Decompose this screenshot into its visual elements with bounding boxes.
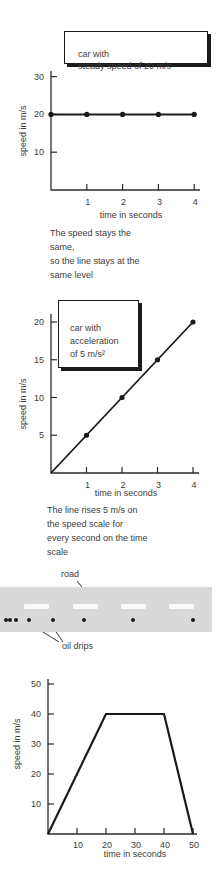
y-tick-label: 10	[31, 799, 41, 809]
x-tick-label: 1	[85, 480, 90, 490]
figures-graphics: 1020301234speed in m/stime in seconds510…	[0, 0, 222, 888]
steady-speed-caption: The speed stays the same, so the line st…	[50, 226, 210, 282]
axes	[51, 71, 200, 190]
x-tick-label: 2	[121, 197, 126, 207]
data-point	[84, 433, 89, 438]
steady-speed-callout: car with steady speed of 20 m/s	[64, 31, 208, 64]
y-tick-label: 20	[31, 769, 41, 779]
y-axis-title: speed in m/s	[12, 718, 22, 770]
oil-drip-dot	[191, 618, 195, 622]
x-tick-label: 3	[157, 197, 162, 207]
data-point	[192, 112, 197, 117]
oil-drip-dot	[51, 618, 55, 622]
y-tick-label: 30	[34, 72, 44, 82]
chart-3: 10203040501020304050speed in m/stime in …	[12, 679, 199, 859]
y-tick-label: 20	[34, 109, 44, 119]
data-point	[155, 357, 160, 362]
chart-1: 1020301234speed in m/stime in seconds	[18, 71, 200, 220]
oil-drip-dot	[14, 618, 18, 622]
lane-marking-dash	[169, 604, 194, 609]
x-tick-label: 10	[73, 840, 83, 850]
y-axis-title: speed in m/s	[18, 105, 28, 157]
y-tick-label: 40	[31, 709, 41, 719]
y-tick-label: 5	[39, 430, 44, 440]
data-point	[156, 112, 161, 117]
data-point	[119, 395, 124, 400]
oil-drip-dot	[27, 618, 31, 622]
y-tick-label: 50	[31, 679, 41, 689]
x-axis-title: time in seconds	[100, 210, 163, 220]
x-tick-label: 1	[85, 197, 90, 207]
y-tick-label: 20	[34, 317, 44, 327]
road-label: road	[61, 569, 79, 580]
data-point	[48, 112, 53, 117]
steady-speed-callout-text: car with steady speed of 20 m/s	[78, 49, 171, 71]
y-tick-label: 10	[34, 393, 44, 403]
y-tick-label: 15	[34, 355, 44, 365]
acceleration-callout: car with acceleration of 5 m/s²	[58, 300, 139, 368]
y-tick-label: 10	[34, 147, 44, 157]
acceleration-callout-text: car with acceleration of 5 m/s²	[70, 323, 119, 359]
x-tick-label: 50	[189, 840, 199, 850]
y-axis-title: speed in m/s	[18, 378, 28, 430]
y-tick-label: 30	[31, 739, 41, 749]
lane-marking-dash	[121, 604, 146, 609]
x-tick-label: 4	[193, 197, 198, 207]
lane-marking-dash	[73, 604, 98, 609]
data-line-speed	[48, 714, 193, 834]
lane-marking-dash	[24, 604, 49, 609]
x-axis-title: time in seconds	[104, 849, 167, 859]
oil-drip-dot	[82, 618, 86, 622]
oil-drip-dot	[8, 618, 12, 622]
data-point	[84, 112, 89, 117]
data-point	[190, 319, 195, 324]
data-point	[120, 112, 125, 117]
road-photo-strip	[0, 587, 212, 632]
oil-drip-dot	[131, 618, 135, 622]
x-axis-title: time in seconds	[95, 488, 158, 498]
textbook-page: 1020301234speed in m/stime in seconds510…	[0, 0, 222, 888]
acceleration-caption: The line rises 5 m/s on the speed scale …	[47, 503, 217, 559]
x-tick-label: 4	[191, 480, 196, 490]
oil-drips-label: oil drips	[62, 641, 93, 652]
